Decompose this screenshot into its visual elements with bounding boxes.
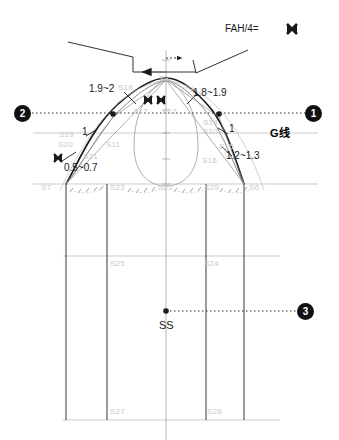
sleeve-cap-curve-main [66, 78, 244, 184]
sleeve-body-outline [66, 184, 244, 420]
sleeve-cap-arc-faint [60, 80, 264, 190]
fah-dimension-bracket [68, 42, 248, 73]
marker-2[interactable]: 2 [14, 105, 31, 122]
diagram-canvas: 2 1 3 FAH/4= G线 SS 1.9~2 1.8~1.9 1 1 1.2… [0, 0, 339, 440]
marker-3-label: 3 [303, 307, 309, 317]
ease-hatching [70, 186, 252, 193]
marker-3[interactable]: 3 [297, 303, 314, 320]
construction-grid [33, 133, 318, 420]
marker-1-label: 1 [311, 109, 317, 119]
marker-1[interactable]: 1 [305, 105, 322, 122]
point-s14-node [216, 111, 222, 117]
point-ss-node [163, 308, 169, 314]
point-s17-node [110, 111, 116, 117]
marker-2-label: 2 [20, 109, 26, 119]
diagram-vector-layer [0, 0, 339, 440]
